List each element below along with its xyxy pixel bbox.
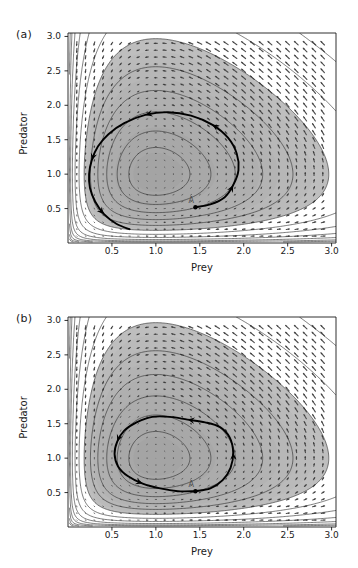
y-tick-label: 3.0	[35, 315, 61, 325]
y-axis-title-b: Predator	[18, 373, 29, 463]
start-point-label: A	[188, 480, 194, 489]
x-axis-title-a: Prey	[68, 262, 336, 273]
x-tick-label: 2.0	[237, 530, 251, 540]
y-tick-label: 1.5	[35, 419, 61, 429]
y-tick-label: 2.5	[35, 66, 61, 76]
phase-portrait-panel-b: (b) A Prey Predator 0.51.01.52.02.53.00.…	[0, 284, 358, 568]
y-tick-label: 1.0	[35, 453, 61, 463]
start-point-marker	[193, 205, 197, 209]
caption-fragment	[0, 556, 358, 568]
x-tick-label: 2.5	[281, 246, 295, 256]
y-tick-label: 3.0	[35, 31, 61, 41]
y-tick-label: 2.5	[35, 350, 61, 360]
y-tick-label: 1.0	[35, 169, 61, 179]
y-tick-label: 0.5	[35, 204, 61, 214]
x-tick-label: 3.0	[324, 246, 338, 256]
start-point-label: A	[188, 196, 194, 205]
start-point-marker	[193, 489, 197, 493]
y-tick-label: 1.5	[35, 135, 61, 145]
y-tick-label: 2.0	[35, 384, 61, 394]
figure-root: (a) A Prey Predator 0.51.01.52.02.53.00.…	[0, 0, 358, 568]
x-tick-label: 1.5	[193, 530, 207, 540]
phase-portrait-panel-a: (a) A Prey Predator 0.51.01.52.02.53.00.…	[0, 0, 358, 284]
x-tick-label: 0.5	[105, 246, 119, 256]
x-tick-label: 1.0	[149, 246, 163, 256]
y-axis-title-a: Predator	[18, 89, 29, 179]
x-tick-label: 2.0	[237, 246, 251, 256]
y-tick-label: 2.0	[35, 100, 61, 110]
x-tick-label: 3.0	[324, 530, 338, 540]
x-tick-label: 1.5	[193, 246, 207, 256]
x-tick-label: 2.5	[281, 530, 295, 540]
x-tick-label: 0.5	[105, 530, 119, 540]
y-tick-label: 0.5	[35, 488, 61, 498]
x-tick-label: 1.0	[149, 530, 163, 540]
